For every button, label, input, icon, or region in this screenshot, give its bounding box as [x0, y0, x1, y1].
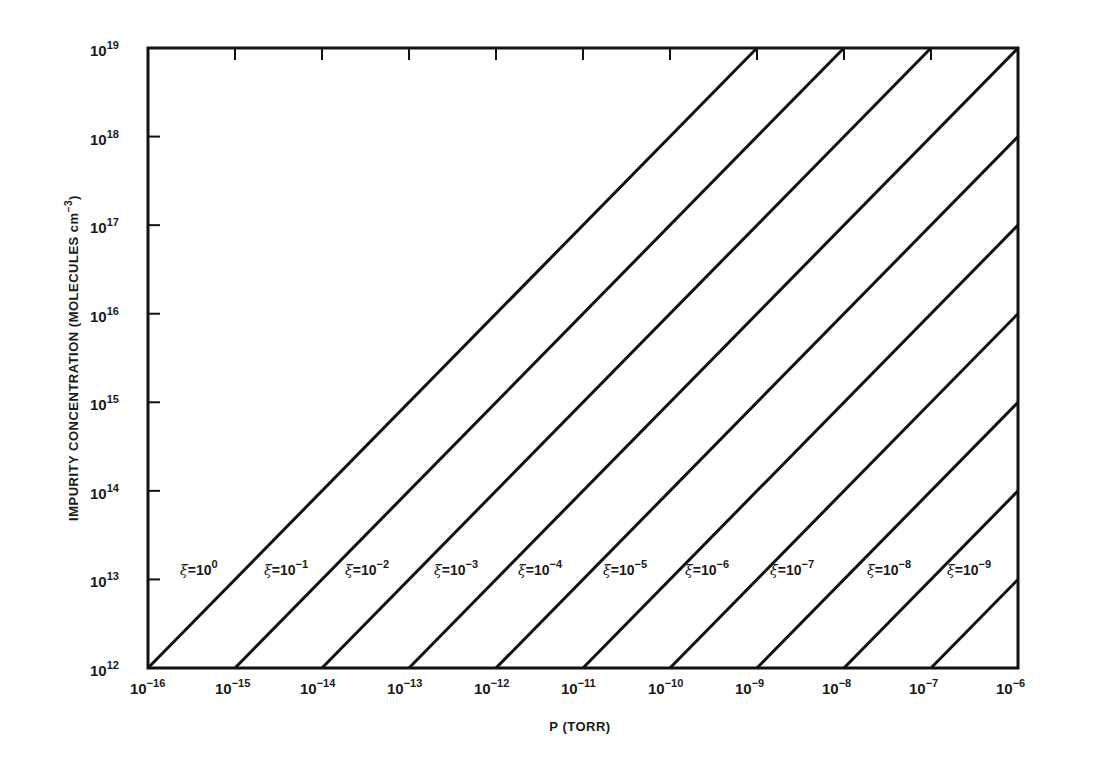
series-line-8 [844, 491, 1018, 668]
curve-label-exponent: −6 [716, 558, 729, 570]
curve-label-5: ξ=10−5 [603, 558, 647, 578]
y-axis-title-sup: −3 [63, 200, 74, 212]
tick-base: 10 [996, 680, 1013, 697]
y-tick-label: 1014 [90, 482, 120, 502]
curve-label-3: ξ=10−3 [434, 558, 478, 578]
curve-label-base: =10 [353, 562, 377, 578]
tick-base: 10 [474, 680, 491, 697]
series-line-5 [583, 225, 1018, 668]
tick-base: 10 [387, 680, 404, 697]
tick-base: 10 [90, 219, 107, 236]
tick-base: 10 [735, 680, 752, 697]
tick-exponent: −15 [232, 677, 251, 689]
x-tick-label: 10−9 [735, 677, 764, 697]
curve-label-9: ξ=10−9 [947, 558, 991, 578]
curve-label-exponent: 0 [211, 558, 217, 570]
series-line-6 [670, 314, 1018, 668]
tick-base: 10 [909, 680, 926, 697]
series-line-7 [757, 402, 1018, 668]
tick-exponent: 15 [107, 393, 119, 405]
tick-base: 10 [90, 485, 107, 502]
y-axis-title: IMPURITY CONCENTRATION (MOLECULES cm−3) [63, 195, 81, 521]
tick-base: 10 [130, 680, 147, 697]
y-tick-label: 1016 [90, 305, 119, 325]
x-axis-tick-labels: 10−1610−1510−1410−1310−1210−1110−1010−91… [130, 677, 1025, 697]
x-tick-label: 10−16 [130, 677, 165, 697]
curve-label-0: ξ=100 [180, 558, 218, 578]
x-tick-label: 10−11 [561, 677, 596, 697]
curve-label-exponent: −7 [801, 558, 814, 570]
tick-base: 10 [90, 662, 107, 679]
tick-exponent: −13 [404, 677, 423, 689]
y-tick-label: 1017 [90, 216, 119, 236]
curve-label-6: ξ=10−6 [685, 558, 729, 578]
tick-base: 10 [90, 42, 107, 59]
y-tick-label: 1015 [90, 393, 119, 413]
tick-exponent: 14 [107, 482, 120, 494]
tick-exponent: −9 [752, 677, 765, 689]
tick-base: 10 [90, 131, 107, 148]
y-axis-tick-labels: 10121013101410151016101710181019 [90, 39, 120, 679]
tick-exponent: 18 [107, 128, 119, 140]
series-line-4 [496, 137, 1018, 668]
x-tick-label: 10−13 [387, 677, 422, 697]
curve-label-base: =10 [442, 562, 466, 578]
tick-exponent: 16 [107, 305, 119, 317]
x-tick-label: 10−14 [300, 677, 336, 697]
y-tick-label: 1018 [90, 128, 119, 148]
tick-base: 10 [90, 308, 107, 325]
curve-label-base: =10 [693, 562, 717, 578]
tick-exponent: −12 [491, 677, 510, 689]
curve-label-exponent: −9 [978, 558, 991, 570]
x-axis-title: P (TORR) [549, 719, 610, 734]
tick-exponent: −7 [926, 677, 939, 689]
curve-label-exponent: −2 [376, 558, 389, 570]
tick-exponent: −6 [1013, 677, 1026, 689]
curve-label-base: =10 [955, 562, 979, 578]
curve-label-1: ξ=10−1 [264, 558, 308, 578]
tick-base: 10 [90, 573, 107, 590]
curve-label-base: =10 [272, 562, 296, 578]
tick-base: 10 [648, 680, 665, 697]
axis-ticks [148, 48, 931, 579]
x-tick-label: 10−10 [648, 677, 683, 697]
curve-label-exponent: −1 [295, 558, 308, 570]
curve-label-base: =10 [875, 562, 899, 578]
tick-exponent: 13 [107, 570, 119, 582]
y-axis-title-close: ) [66, 195, 81, 200]
tick-exponent: −11 [578, 677, 596, 689]
curve-label-4: ξ=10−4 [518, 558, 563, 578]
y-axis-title-main: IMPURITY CONCENTRATION (MOLECULES cm [66, 212, 81, 521]
tick-base: 10 [300, 680, 317, 697]
x-tick-label: 10−8 [822, 677, 851, 697]
curve-label-base: =10 [778, 562, 802, 578]
series-line-9 [931, 579, 1018, 668]
curve-label-exponent: −3 [465, 558, 478, 570]
x-tick-label: 10−12 [474, 677, 509, 697]
curve-label-2: ξ=10−2 [345, 558, 389, 578]
tick-exponent: 19 [107, 39, 119, 51]
tick-exponent: 12 [107, 659, 119, 671]
y-tick-label: 1012 [90, 659, 119, 679]
curve-label-8: ξ=10−8 [867, 558, 911, 578]
tick-exponent: −10 [665, 677, 684, 689]
tick-exponent: −8 [839, 677, 852, 689]
y-tick-label: 1013 [90, 570, 119, 590]
x-tick-label: 10−6 [996, 677, 1025, 697]
tick-exponent: −16 [147, 677, 166, 689]
curve-label-exponent: −5 [634, 558, 647, 570]
x-tick-label: 10−15 [215, 677, 250, 697]
tick-base: 10 [215, 680, 232, 697]
curve-label-base: =10 [611, 562, 635, 578]
y-tick-label: 1019 [90, 39, 119, 59]
curve-label-exponent: −4 [549, 558, 562, 570]
tick-exponent: 17 [107, 216, 119, 228]
x-tick-label: 10−7 [909, 677, 938, 697]
tick-exponent: −14 [317, 677, 337, 689]
tick-base: 10 [822, 680, 839, 697]
curve-label-base: =10 [188, 562, 212, 578]
curve-label-base: =10 [526, 562, 550, 578]
tick-base: 10 [561, 680, 578, 697]
tick-base: 10 [90, 396, 107, 413]
chart: 10−1610−1510−1410−1310−1210−1110−1010−91… [0, 0, 1097, 783]
